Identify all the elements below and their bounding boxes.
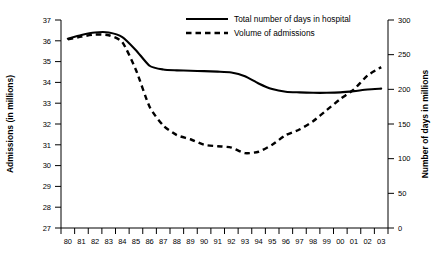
right-axis-tick-labels: 050100150200250300 [398,16,411,233]
right-axis-title: Number of days in millions [420,69,430,178]
series-line-volume-admissions [68,34,381,153]
x-tick-label: 89 [186,237,194,246]
axis-lines [61,20,388,228]
x-tick-label: 83 [105,237,113,246]
left-tick-label: 34 [43,78,51,87]
x-tick-label: 99 [323,237,331,246]
left-tick-label: 37 [43,16,51,25]
left-axis-ticks [55,20,61,228]
x-tick-label: 86 [145,237,153,246]
legend-label-total-days: Total number of days in hospital [234,14,351,24]
left-tick-label: 28 [43,203,51,212]
left-tick-label: 29 [43,182,51,191]
x-tick-label: 81 [77,237,85,246]
dual-axis-line-chart: 2728293031323334353637 05010015020025030… [0,0,436,261]
left-axis-tick-labels: 2728293031323334353637 [43,16,51,233]
legend-label-volume-admissions: Volume of admissions [234,28,315,38]
x-tick-label: 85 [132,237,140,246]
x-tick-label: 03 [377,237,385,246]
right-tick-label: 50 [398,189,406,198]
x-tick-label: 01 [350,237,358,246]
chart-legend: Total number of days in hospital Volume … [186,14,351,38]
left-tick-label: 27 [43,224,51,233]
x-tick-label: 96 [282,237,290,246]
x-tick-label: 02 [363,237,371,246]
right-axis-ticks [388,20,394,228]
right-tick-label: 300 [398,16,411,25]
right-tick-label: 250 [398,50,411,59]
x-tick-label: 82 [91,237,99,246]
x-tick-label: 90 [200,237,208,246]
x-tick-label: 84 [118,237,126,246]
x-tick-label: 98 [309,237,317,246]
x-tick-label: 93 [241,237,249,246]
right-tick-label: 200 [398,85,411,94]
x-tick-label: 92 [227,237,235,246]
x-axis-ticks [61,228,388,234]
left-tick-label: 32 [43,120,51,129]
left-tick-label: 35 [43,57,51,66]
x-tick-label: 00 [336,237,344,246]
left-tick-label: 36 [43,37,51,46]
left-tick-label: 33 [43,99,51,108]
x-axis-tick-labels: 8081828384858687888990919293949596979899… [64,237,386,246]
right-tick-label: 100 [398,154,411,163]
x-tick-label: 94 [254,237,262,246]
x-tick-label: 88 [173,237,181,246]
x-tick-label: 91 [214,237,222,246]
x-tick-label: 95 [268,237,276,246]
chart-container: 2728293031323334353637 05010015020025030… [0,0,436,261]
left-tick-label: 31 [43,141,51,150]
x-tick-label: 87 [159,237,167,246]
x-tick-label: 80 [64,237,72,246]
right-tick-label: 150 [398,120,411,129]
left-tick-label: 30 [43,161,51,170]
series-line-total-days [68,32,381,93]
right-tick-label: 0 [398,224,402,233]
left-axis-title: Admissions (in millions) [5,75,15,173]
x-tick-label: 97 [295,237,303,246]
